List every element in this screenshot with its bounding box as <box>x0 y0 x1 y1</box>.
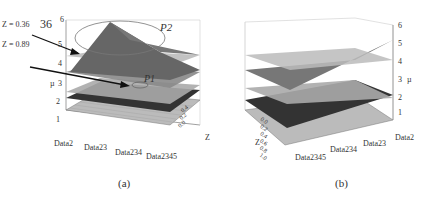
y-tick: 2 <box>398 93 402 102</box>
panel-b: 1 2 3 4 5 6 µ Data2 Data23 Data234 Data2… <box>215 0 427 200</box>
y-tick: 1 <box>398 108 402 117</box>
x-tick: Data23 <box>84 143 107 152</box>
y-tick: 2 <box>56 97 60 106</box>
y-axis-label: µ <box>50 79 55 88</box>
z-axis-label: Z <box>255 138 260 147</box>
x-tick: Data2 <box>54 139 73 148</box>
z-tick: 1.0 <box>259 152 269 161</box>
annotation-p1: P1 <box>143 73 155 84</box>
y-tick: 4 <box>58 59 62 68</box>
y-tick: 1 <box>56 115 60 124</box>
x-tick: Data2345 <box>295 153 326 162</box>
panel-a: Z = 0.36 36 Z = 0.89 P2 P1 1 2 3 4 5 6 µ… <box>0 0 215 200</box>
y-tick: 6 <box>398 21 402 30</box>
y-tick: 3 <box>58 79 62 88</box>
caption-b: (b) <box>335 177 348 189</box>
y-tick: 3 <box>398 75 402 84</box>
x-tick: Data23 <box>363 139 386 148</box>
annotation-p2: P2 <box>159 21 173 33</box>
annotation-z-036-value: 36 <box>40 17 52 31</box>
surface-plot-b: 1 2 3 4 5 6 µ Data2 Data23 Data234 Data2… <box>215 0 427 170</box>
caption-a: (a) <box>118 177 130 189</box>
y-axis-label: µ <box>407 75 412 84</box>
y-tick: 5 <box>398 39 402 48</box>
x-tick: Data2345 <box>146 152 177 161</box>
annotation-z-036: Z = 0.36 <box>2 20 29 29</box>
y-tick: 6 <box>60 15 64 24</box>
x-tick: Data234 <box>330 145 357 154</box>
surface-plot-a: Z = 0.36 36 Z = 0.89 P2 P1 1 2 3 4 5 6 µ… <box>0 0 215 170</box>
x-tick: Data2 <box>395 133 414 142</box>
annotation-z-089: Z = 0.89 <box>2 40 29 49</box>
z-axis-label: Z <box>205 133 210 142</box>
y-tick: 4 <box>398 57 402 66</box>
x-tick: Data234 <box>115 148 142 157</box>
y-tick: 5 <box>58 40 62 49</box>
